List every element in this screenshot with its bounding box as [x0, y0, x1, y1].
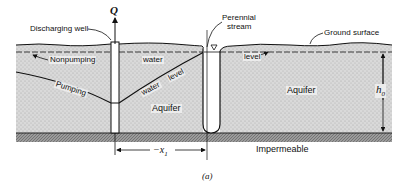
perennial-stream-label-line1: Perennial — [222, 14, 256, 22]
discharging-well-label: Discharging well — [30, 25, 88, 33]
perennial-stream — [203, 49, 220, 133]
h0-subscript: 0 — [382, 90, 386, 98]
perennial-stream-label-line2: stream — [227, 23, 251, 31]
x1-label: −x1 — [153, 145, 168, 158]
impermeable-label: Impermeable — [256, 145, 309, 154]
x1-symbol: −x — [153, 144, 164, 155]
ground-surface-label: Ground surface — [324, 29, 379, 37]
water-label: water — [142, 56, 164, 64]
discharge-q-label: Q — [110, 5, 118, 16]
h0-label: h0 — [375, 84, 386, 98]
level-label: level — [243, 53, 261, 61]
aquifer-left-label: Aquifer — [151, 104, 182, 113]
impermeable-layer — [16, 133, 392, 142]
x1-subscript: 1 — [164, 150, 168, 158]
figure-caption: (a) — [202, 172, 213, 181]
aquifer-right-label: Aquifer — [286, 86, 317, 95]
discharging-well-leader — [88, 29, 111, 40]
ground-surface-leader — [310, 33, 323, 44]
discharging-well — [111, 42, 119, 133]
perennial-stream-leader — [207, 22, 222, 47]
water-surface-symbol — [211, 45, 217, 50]
nonpumping-label: Nonpumping — [49, 56, 96, 64]
